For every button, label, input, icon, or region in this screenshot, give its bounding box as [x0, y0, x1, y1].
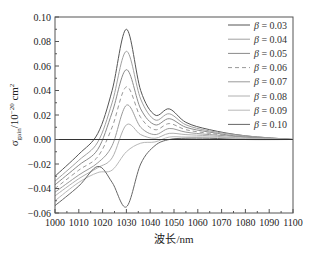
x-tick-label: 1100 — [283, 217, 303, 228]
y-tick-label: 0.04 — [34, 85, 52, 96]
y-tick-label: 0.10 — [34, 12, 52, 23]
x-tick-label: 1090 — [259, 217, 279, 228]
y-tick-label: 0.00 — [34, 134, 52, 145]
x-tick-label: 1000 — [45, 217, 65, 228]
x-tick-label: 1060 — [188, 217, 208, 228]
series-line — [55, 138, 293, 207]
legend-label: β = 0.05 — [253, 48, 287, 59]
legend-label: β = 0.09 — [253, 105, 287, 116]
y-tick-label: −0.06 — [28, 208, 51, 219]
legend-label: β = 0.10 — [253, 119, 287, 130]
x-tick-label: 1070 — [212, 217, 232, 228]
y-tick-label: −0.02 — [28, 159, 51, 170]
x-tick-label: 1050 — [164, 217, 184, 228]
x-tick-label: 1020 — [93, 217, 113, 228]
gain-cross-section-chart: 1000101010201030104010501060107010801090… — [0, 0, 312, 255]
x-axis: 1000101010201030104010501060107010801090… — [45, 209, 303, 228]
legend-label: β = 0.07 — [253, 76, 287, 87]
svg-text:σgain/10−20 cm2: σgain/10−20 cm2 — [8, 83, 23, 146]
legend-label: β = 0.04 — [253, 34, 287, 45]
x-tick-label: 1040 — [140, 217, 160, 228]
series-line — [55, 124, 293, 196]
y-tick-label: −0.04 — [28, 183, 51, 194]
y-tick-label: 0.06 — [34, 61, 52, 72]
legend-label: β = 0.03 — [253, 20, 287, 31]
legend-label: β = 0.06 — [253, 62, 287, 73]
legend: β = 0.03β = 0.04β = 0.05β = 0.06β = 0.07… — [228, 20, 287, 130]
legend-label: β = 0.08 — [253, 91, 287, 102]
y-axis-title: σgain/10−20 cm2 — [8, 83, 23, 146]
y-tick-label: 0.02 — [34, 110, 52, 121]
y-axis: −0.06−0.04−0.020.000.020.040.060.080.10 — [28, 12, 59, 219]
x-tick-label: 1010 — [69, 217, 89, 228]
series-line — [55, 137, 293, 201]
y-tick-label: 0.08 — [34, 36, 52, 47]
x-tick-label: 1080 — [235, 217, 255, 228]
x-axis-title: 波长/nm — [154, 233, 194, 245]
x-tick-label: 1030 — [116, 217, 136, 228]
